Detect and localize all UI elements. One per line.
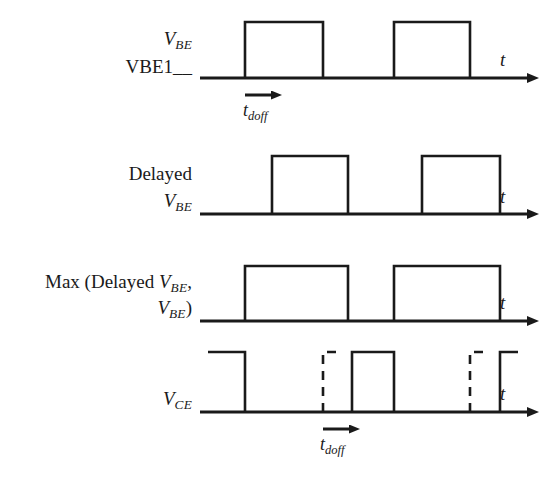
waveform-delayed-vbe xyxy=(200,156,528,214)
vce-initial-high xyxy=(208,352,245,412)
waveform-max-vbe xyxy=(200,266,528,321)
vce-dashed-edge-1 xyxy=(323,352,338,412)
delayed-vbe-pulse-1 xyxy=(272,156,348,214)
vbe-pulse-1 xyxy=(245,22,323,78)
vbe-symbol: V xyxy=(164,28,176,49)
vbe1-label: VBE1__ xyxy=(126,56,193,78)
delayed-vbe-pulse-2 xyxy=(422,156,500,214)
max-vbe-label-line1: Max (Delayed VBE, xyxy=(45,271,192,295)
timing-diagram-figure: VBE VBE1__ t tdoff Delayed VBE t Max (De… xyxy=(0,0,558,480)
delayed-vbe-axis-t-label: t xyxy=(500,186,505,208)
vbe-subscript: BE xyxy=(175,37,192,52)
vce-pulse-1 xyxy=(352,352,394,412)
waveform-vce xyxy=(200,352,528,429)
vbe-axis-t-label: t xyxy=(500,49,505,71)
max-vbe-pulse-2 xyxy=(394,266,500,321)
waveform-canvas xyxy=(0,0,558,480)
max-vbe-pulse-1 xyxy=(245,266,348,321)
delayed-vbe-label-line1: Delayed xyxy=(129,163,192,185)
vbe-tdoff-label: tdoff xyxy=(243,100,268,124)
vbe-pulse-2 xyxy=(394,22,470,78)
waveform-vbe xyxy=(200,22,528,95)
max-vbe-label-line2: VBE) xyxy=(157,297,192,321)
vce-dashed-edge-2 xyxy=(470,352,485,412)
delayed-vbe-label-line2: VBE xyxy=(164,190,192,214)
vce-axis-t-label: t xyxy=(500,383,505,405)
vce-tdoff-label: tdoff xyxy=(320,434,345,458)
vce-label: VCE xyxy=(163,388,192,412)
vbe-label-line1: VBE xyxy=(164,28,192,52)
max-vbe-axis-t-label: t xyxy=(500,292,505,314)
